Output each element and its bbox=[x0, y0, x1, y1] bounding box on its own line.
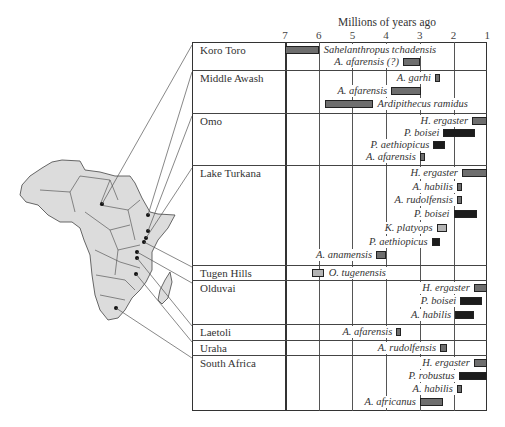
taxon-label: A. habilis bbox=[411, 383, 455, 395]
taxon-range-bar bbox=[474, 284, 487, 292]
taxon-label: O. tugenensis bbox=[327, 267, 388, 279]
x-tick-label: 1 bbox=[480, 29, 494, 41]
taxon-range-bar bbox=[285, 46, 319, 54]
site-label: Olduvai bbox=[200, 282, 235, 294]
hominin-site-timeline-figure: Millions of years ago 7654321 Koro ToroS… bbox=[0, 0, 505, 427]
taxon-range-bar bbox=[455, 311, 474, 319]
site-label: Omo bbox=[200, 115, 222, 127]
taxon-range-bar bbox=[457, 385, 462, 393]
taxon-range-bar bbox=[472, 117, 487, 125]
taxon-range-bar bbox=[420, 398, 444, 406]
taxon-range-bar bbox=[460, 297, 482, 305]
taxon-label: A. afarensis bbox=[364, 151, 418, 163]
x-tick-label: 4 bbox=[379, 29, 393, 41]
taxon-label: A. afarensis (?) bbox=[332, 56, 401, 68]
x-tick-label: 7 bbox=[278, 29, 292, 41]
taxon-label: P. boisei bbox=[419, 295, 458, 307]
taxon-range-bar bbox=[437, 224, 447, 232]
taxon-range-bar bbox=[312, 269, 324, 277]
taxon-range-bar bbox=[459, 372, 488, 380]
site-label: Koro Toro bbox=[200, 44, 246, 56]
taxon-label: Sahelanthropus tchadensis bbox=[322, 44, 438, 56]
site-label: Tugen Hills bbox=[200, 267, 252, 279]
taxon-label: P. robustus bbox=[406, 370, 456, 382]
site-label: Middle Awash bbox=[200, 72, 263, 84]
taxon-range-bar bbox=[457, 183, 462, 191]
africa-landmass bbox=[20, 160, 175, 320]
taxon-label: Ardipithecus ramidus bbox=[376, 98, 470, 110]
site-label: Uraha bbox=[200, 342, 227, 354]
taxon-label: P. aethiopicus bbox=[369, 139, 432, 151]
row-divider bbox=[192, 70, 487, 71]
taxon-label: A. africanus bbox=[362, 396, 417, 408]
site-label: Lake Turkana bbox=[200, 167, 261, 179]
row-divider bbox=[192, 340, 487, 341]
taxon-label: A. afarensis bbox=[335, 85, 389, 97]
taxon-range-bar bbox=[376, 251, 386, 259]
row-divider bbox=[192, 355, 487, 356]
x-tick-label: 5 bbox=[345, 29, 359, 41]
taxon-range-bar bbox=[420, 153, 425, 161]
taxon-range-bar bbox=[325, 100, 372, 108]
taxon-label: H. ergaster bbox=[419, 115, 470, 127]
taxon-range-bar bbox=[435, 74, 440, 82]
taxon-label: P. boisei bbox=[412, 208, 451, 220]
taxon-label: A. habilis bbox=[409, 309, 453, 321]
taxon-label: A. anamensis bbox=[314, 249, 374, 261]
taxon-range-bar bbox=[391, 87, 421, 95]
taxon-label: A. garhi bbox=[395, 72, 433, 84]
taxon-range-bar bbox=[433, 141, 445, 149]
x-tick-label: 6 bbox=[312, 29, 326, 41]
taxon-label: P. boisei bbox=[402, 127, 441, 139]
taxon-label: H. ergaster bbox=[408, 167, 459, 179]
taxon-range-bar bbox=[474, 359, 487, 367]
taxon-label: H. ergaster bbox=[420, 357, 471, 369]
taxon-label: A. afarensis bbox=[340, 326, 394, 338]
taxon-range-bar bbox=[432, 238, 440, 246]
taxon-label: A. rudolfensis bbox=[376, 342, 438, 354]
taxon-range-bar bbox=[396, 328, 401, 336]
taxon-range-bar bbox=[443, 129, 475, 137]
taxon-label: A. habilis bbox=[411, 181, 455, 193]
taxon-range-bar bbox=[457, 196, 462, 204]
row-divider bbox=[192, 324, 487, 325]
x-axis-title: Millions of years ago bbox=[312, 16, 462, 28]
taxon-label: A. rudolfensis bbox=[393, 194, 455, 206]
taxon-range-bar bbox=[462, 169, 487, 177]
taxon-range-bar bbox=[440, 344, 447, 352]
taxon-label: P. aethiopicus bbox=[367, 236, 430, 248]
taxon-label: H. ergaster bbox=[420, 282, 471, 294]
site-label: South Africa bbox=[200, 357, 256, 369]
taxon-range-bar bbox=[403, 58, 420, 66]
row-divider bbox=[192, 113, 487, 114]
taxon-label: K. platyops bbox=[383, 222, 435, 234]
x-tick-label: 2 bbox=[447, 29, 461, 41]
x-tick-label: 3 bbox=[413, 29, 427, 41]
site-label: Laetoli bbox=[200, 326, 231, 338]
row-divider bbox=[192, 165, 487, 166]
taxon-range-bar bbox=[454, 210, 478, 218]
row-divider bbox=[192, 280, 487, 281]
